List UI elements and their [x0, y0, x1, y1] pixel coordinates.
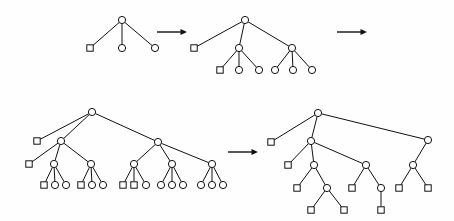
tree-node-circle[interactable]	[289, 66, 296, 73]
tree-edge	[197, 22, 242, 47]
figure-canvas	[0, 0, 454, 221]
tree-node-circle[interactable]	[208, 181, 215, 188]
tree-edge	[241, 51, 256, 68]
arrow-head-icon	[181, 29, 188, 35]
tree-edge	[137, 144, 156, 161]
tree-edge	[274, 115, 315, 140]
tree-node-square[interactable]	[26, 161, 32, 167]
tree-node-circle[interactable]	[88, 108, 95, 115]
tree-node-circle[interactable]	[157, 181, 164, 188]
tree-node-square[interactable]	[268, 139, 274, 145]
tree-node-circle[interactable]	[154, 138, 161, 145]
tree-edge	[125, 167, 133, 182]
tree-node-square[interactable]	[308, 207, 314, 213]
tree-node-circle[interactable]	[323, 184, 330, 191]
tree-node-square[interactable]	[378, 207, 384, 213]
tree-node-square[interactable]	[294, 185, 300, 191]
tree-edge	[55, 144, 60, 160]
tree-node-circle[interactable]	[62, 181, 69, 188]
tree-edge	[321, 114, 424, 139]
tree-node-circle[interactable]	[409, 161, 416, 168]
tree-node-circle[interactable]	[99, 181, 106, 188]
tree-node-circle[interactable]	[118, 16, 125, 23]
tree-node-square[interactable]	[341, 207, 347, 213]
tree-edge	[160, 145, 170, 161]
tree-edge	[91, 168, 92, 182]
tree-edge	[240, 24, 244, 45]
tree-node-circle[interactable]	[314, 109, 321, 116]
tree-edge	[316, 168, 325, 185]
tree-node-circle[interactable]	[235, 66, 242, 73]
tree-node-square[interactable]	[41, 182, 47, 188]
tree-step-4	[268, 109, 432, 213]
tree-expansion-figure	[0, 0, 454, 221]
tree-node-circle[interactable]	[255, 66, 262, 73]
tree-edge	[299, 168, 312, 185]
tree-edge	[56, 167, 64, 182]
tree-node-circle[interactable]	[87, 160, 94, 167]
tree-node-circle[interactable]	[241, 16, 248, 23]
tree-node-circle[interactable]	[310, 161, 317, 168]
tree-edge	[54, 168, 55, 182]
tree-edge	[93, 167, 101, 182]
tree-nodes	[26, 108, 227, 188]
tree-node-circle[interactable]	[307, 137, 314, 144]
tree-edge	[415, 143, 426, 162]
tree-node-square[interactable]	[396, 185, 402, 191]
tree-node-circle[interactable]	[57, 137, 64, 144]
tree-node-circle[interactable]	[168, 160, 175, 167]
tree-node-circle[interactable]	[197, 181, 204, 188]
tree-edge	[290, 144, 308, 163]
tree-node-circle[interactable]	[118, 44, 125, 51]
tree-edge	[83, 167, 90, 182]
tree-edge	[248, 22, 289, 46]
tree-node-circle[interactable]	[168, 181, 175, 188]
tree-node-circle[interactable]	[50, 160, 57, 167]
tree-node-circle[interactable]	[151, 44, 158, 51]
tree-node-circle[interactable]	[208, 160, 215, 167]
tree-node-square[interactable]	[217, 67, 223, 73]
tree-edge	[174, 167, 182, 182]
tree-node-circle[interactable]	[235, 44, 242, 51]
tree-node-circle[interactable]	[219, 181, 226, 188]
tree-node-square[interactable]	[349, 185, 355, 191]
tree-edge	[64, 143, 88, 162]
tree-node-square[interactable]	[285, 162, 291, 168]
tree-edges	[93, 22, 153, 45]
tree-edge	[222, 51, 236, 68]
tree-edge	[125, 22, 153, 45]
tree-node-circle[interactable]	[130, 160, 137, 167]
tree-node-square[interactable]	[425, 185, 431, 191]
tree-edge	[277, 51, 290, 67]
tree-step-1	[87, 16, 159, 51]
tree-node-square[interactable]	[78, 182, 84, 188]
tree-node-circle[interactable]	[362, 161, 369, 168]
tree-edge	[313, 191, 325, 207]
tree-node-square[interactable]	[131, 182, 137, 188]
tree-edges	[32, 113, 221, 181]
arrow-head-icon	[361, 29, 368, 35]
tree-step-2	[191, 16, 316, 73]
tree-node-square[interactable]	[87, 45, 93, 51]
tree-node-circle[interactable]	[288, 44, 295, 51]
tree-node-circle[interactable]	[424, 136, 431, 143]
tree-edge	[314, 142, 362, 163]
tree-edge	[203, 167, 211, 182]
tree-node-circle[interactable]	[179, 181, 186, 188]
tree-node-square[interactable]	[120, 182, 126, 188]
tree-edge	[311, 145, 313, 162]
tree-node-square[interactable]	[191, 45, 197, 51]
tree-node-circle[interactable]	[142, 181, 149, 188]
arrow-top-1	[157, 29, 187, 35]
tree-node-circle[interactable]	[308, 66, 315, 73]
transition-arrows	[157, 29, 367, 155]
tree-node-circle[interactable]	[51, 181, 58, 188]
tree-node-square[interactable]	[34, 138, 40, 144]
tree-edge	[368, 168, 379, 185]
tree-edge	[329, 191, 342, 207]
tree-edge	[46, 167, 53, 182]
tree-node-circle[interactable]	[271, 66, 278, 73]
tree-node-circle[interactable]	[88, 181, 95, 188]
tree-edge	[415, 168, 426, 185]
tree-node-circle[interactable]	[377, 184, 384, 191]
